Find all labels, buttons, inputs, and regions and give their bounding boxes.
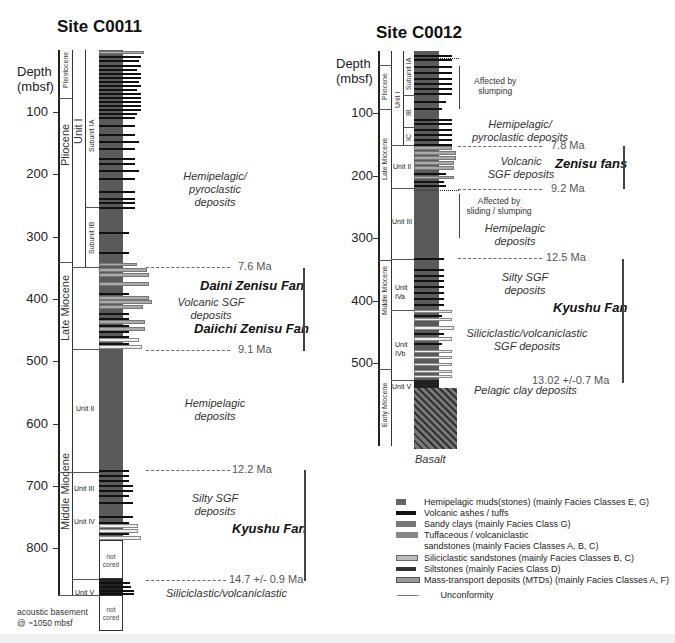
age-9-1-ma: 9.1 Ma [238, 343, 272, 355]
kyushu-range-bar-c0012 [622, 259, 624, 383]
epoch-middle-miocene: Middle Miocene [59, 453, 71, 530]
epoch-late-miocene-c0012: Late Miocene [381, 138, 388, 180]
annotation-volcanic-sgf: Volcanic SGF deposits [166, 296, 256, 322]
legend-item-volcanic-ash: Volcanic ashes / tuffs [396, 508, 508, 518]
fan-kyushu-c0012: Kyushu Fan [553, 300, 627, 315]
annotation-silty-sgf-c0012: Silty SGF deposits [490, 271, 560, 297]
zenisu-range-bar [623, 146, 625, 189]
annotation-volcanic-sgf-c0012: Volcanic SGF deposits [485, 155, 557, 181]
basalt-block [414, 388, 457, 449]
fan-daiichi-zenisu: Daiichi Zenisu Fan [194, 321, 309, 336]
unit-iii-label-c0012: Unit III [392, 218, 412, 225]
epoch-late-miocene: Late Miocene [59, 275, 71, 341]
unit-ii-label: Unit II [76, 405, 94, 412]
unit-v-label: Unit V [75, 589, 94, 596]
age-12-5-ma: 12.5 Ma [546, 251, 586, 263]
fan-kyushu-c0011: Kyushu Fan [232, 521, 306, 536]
epoch-pliocene-c0012: Pliocene [381, 73, 388, 100]
basalt-label: Basalt [415, 453, 446, 466]
legend-item-sandy-clays: Sandy clays (mainly Facies Class G) [396, 519, 571, 529]
unconformity-icon: ~~~~~~~~ [396, 591, 438, 600]
acoustic-basement-note: acoustic basement @ ~1050 mbsf [17, 607, 88, 629]
epoch-pleistocene: Pleistocene [62, 52, 69, 88]
age-14-7-ma: 14.7 +/- 0.9 Ma [229, 573, 303, 585]
legend-item-unconformity: ~~~~~~~~ Unconformity [396, 590, 494, 600]
site-c0011-title: Site C0011 [57, 17, 142, 37]
legend-item-siliciclastic: Siliciclastic sandstones (mainly Facies … [396, 553, 634, 563]
unconformity-mark [414, 190, 459, 194]
epoch-early-miocene-c0012: Early Miocene [381, 383, 388, 427]
subunit-ia-label-c0012: Subunit IA [405, 58, 412, 90]
not-cored-box-lower: not cored [99, 595, 123, 631]
page-footer-strip [0, 634, 675, 643]
unit-v-label-c0012: Unit V [392, 383, 411, 390]
legend-item-mtd: Mass-transport deposits (MTDs) (mainly F… [396, 575, 669, 585]
epoch-pliocene: Pliocene [59, 124, 71, 166]
annotation-hemipelagic-pyroclastic: Hemipelagic/ pyroclastic deposits [170, 170, 260, 209]
not-cored-box: not cored [99, 540, 123, 579]
unit-i-label: Unit I [72, 118, 84, 144]
unit-iv-label: Unit IV [74, 518, 95, 525]
subunit-ib-label-c0012: IB [405, 109, 412, 116]
age-7-6-ma: 7.6 Ma [238, 260, 272, 272]
annotation-slumping: Affected by slumping [474, 76, 516, 96]
lithology-column [99, 50, 123, 540]
annotation-siliciclastic: Siliciclastic/volcaniclastic [166, 587, 287, 600]
annotation-pelagic-clay: Pelagic clay deposits [474, 384, 577, 397]
unit-i-label-c0012: Unit I [394, 92, 401, 108]
fan-zenisu: Zenisu fans [555, 156, 627, 171]
unit-iva-label: Unit IVa [395, 283, 407, 301]
kyushu-range-bar-c0011 [304, 470, 306, 581]
annotation-hemipelagic: Hemipelagic deposits [170, 397, 260, 423]
legend-item-siltstones: Siltstones (mainly Facies Class D) [396, 564, 561, 574]
subunit-ia-label: Subunit IA [88, 120, 95, 152]
age-12-2-ma: 12.2 Ma [232, 463, 272, 475]
unit-ii-label-c0012: Unit II [393, 163, 411, 170]
annotation-siliciclastic-sgf: Siliciclastic/volcaniclastic SGF deposit… [462, 327, 592, 353]
unit-ivb-label: Unit IVb [395, 340, 407, 358]
subunit-ib-label: Subunit IB [88, 222, 95, 254]
age-7-8-ma: 7.8 Ma [551, 139, 585, 151]
unit-iii-label: Unit III [74, 485, 94, 492]
fan-daini-zenisu: Daini Zenisu Fan [200, 278, 304, 293]
epoch-middle-miocene-c0012: Middle Miocene [381, 266, 388, 315]
slumping-arrow [459, 66, 460, 109]
legend-item-hemipelagic: Hemipelagic muds(stones) (mainly Facies … [396, 497, 649, 507]
subunit-ic-label-c0012: IC [405, 134, 412, 141]
depth-axis-label-c0012: Depth (mbsf) [336, 56, 373, 86]
site-c0012-title: Site C0012 [376, 23, 462, 43]
legend-item-tuffaceous: Tuffaceous / volcaniclastic sandstones (… [396, 530, 599, 552]
annotation-sliding: Affected by sliding / slumping [464, 196, 534, 216]
sliding-arrow [459, 194, 460, 238]
annotation-silty-sgf: Silty SGF deposits [170, 492, 260, 518]
age-9-2-ma: 9.2 Ma [551, 182, 585, 194]
daini-daiichi-range-bar [303, 268, 305, 351]
depth-axis-label: Depth (mbsf) [17, 64, 54, 94]
legend: Hemipelagic muds(stones) (mainly Facies … [396, 497, 675, 607]
unconformity-mark [414, 58, 459, 62]
annotation-hemipelagic-c0012: Hemipelagic deposits [480, 222, 550, 248]
